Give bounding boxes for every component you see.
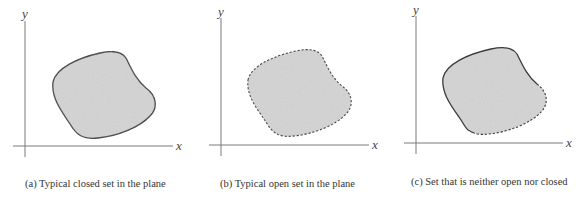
y-axis-label: y (411, 2, 419, 17)
panel-b: y x (209, 4, 378, 156)
x-axis-label: x (175, 138, 182, 153)
x-axis-label: x (565, 135, 572, 150)
panel-c: y x (404, 2, 572, 154)
caption-a: (a) Typical closed set in the plane (25, 178, 166, 189)
y-axis-label: y (20, 6, 28, 21)
x-axis-label: x (371, 137, 378, 152)
figure-canvas: y x y x y x (0, 0, 578, 198)
open-set-region (248, 50, 351, 137)
caption-b: (b) Typical open set in the plane (220, 178, 355, 189)
y-axis-label: y (216, 4, 224, 19)
panel-a: y x (13, 6, 182, 157)
closed-set-region (53, 52, 155, 139)
caption-c: (c) Set that is neither open nor closed (411, 176, 568, 187)
